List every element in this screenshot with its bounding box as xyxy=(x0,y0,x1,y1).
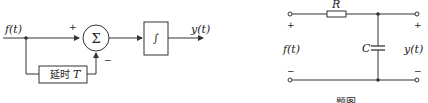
rc-circuit: R C + + f(t) y(t) − − 题图 xyxy=(282,0,423,103)
figure-caption: 题图 xyxy=(336,97,356,103)
minus-sign: − xyxy=(104,55,112,65)
block-diagram: f(t) + Σ 延时 T − ∫ y(t) xyxy=(3,22,210,83)
input-minus: − xyxy=(287,66,295,76)
circuit-output-label: y(t) xyxy=(403,43,423,56)
input-plus: + xyxy=(287,20,295,30)
output-terminal-bottom xyxy=(415,78,419,82)
input-terminal-bottom xyxy=(288,78,292,82)
input-terminal-top xyxy=(288,12,292,16)
resistor xyxy=(327,11,346,17)
sigma-symbol: Σ xyxy=(91,31,100,46)
delay-label: 延时 xyxy=(50,69,70,80)
circuit-input-label: f(t) xyxy=(282,43,300,56)
output-minus: − xyxy=(414,66,422,76)
input-label: f(t) xyxy=(4,23,22,36)
integral-symbol: ∫ xyxy=(153,32,159,45)
plus-sign: + xyxy=(69,22,77,32)
delay-var: T xyxy=(73,68,82,81)
capacitor-label: C xyxy=(362,42,371,55)
output-terminal-top xyxy=(415,12,419,16)
output-label: y(t) xyxy=(190,23,210,36)
node-bottom xyxy=(376,78,380,82)
diagram-canvas: f(t) + Σ 延时 T − ∫ y(t) R C xyxy=(0,0,428,103)
output-plus: + xyxy=(414,20,422,30)
resistor-label: R xyxy=(331,0,340,11)
